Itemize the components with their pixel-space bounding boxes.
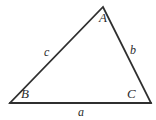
triangle-outline-svg [0, 0, 156, 120]
side-label-a: a [78, 106, 84, 118]
vertex-label-c: C [127, 87, 136, 100]
side-label-b: b [130, 44, 136, 56]
vertex-label-b: B [21, 87, 29, 100]
vertex-label-a: A [99, 11, 107, 24]
triangle-figure: A B C a b c [0, 0, 156, 120]
side-label-c: c [44, 46, 49, 58]
